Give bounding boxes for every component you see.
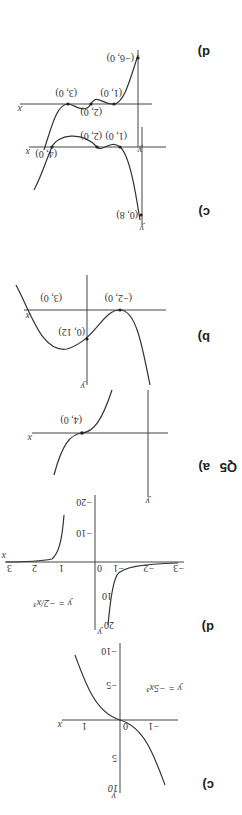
svg-text:(−6, 0): (−6, 0) xyxy=(107,52,134,64)
svg-text:x: x xyxy=(17,104,23,115)
svg-text:(1, 0): (1, 0) xyxy=(100,87,122,99)
svg-text:y: y xyxy=(137,145,143,156)
svg-text:(2, 0): (2, 0) xyxy=(80,106,102,118)
graph-d: y x (−6, 0) (1, 0) (2, 0) (3, 0) xyxy=(0,0,242,815)
svg-text:(3, 0): (3, 0) xyxy=(55,87,77,99)
answer-page: c) 10y 5 −5 −10 −1 0 1 x y = −5x³ d) 20y… xyxy=(0,0,242,815)
